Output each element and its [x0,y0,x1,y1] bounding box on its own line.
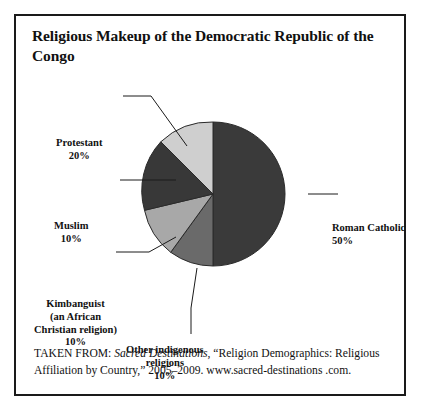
source-prefix: TAKEN FROM: [34,347,114,360]
source-caption: TAKEN FROM: Sacred Destinations, “Religi… [34,346,396,379]
figure-frame: Religious Makeup of the Democratic Repub… [14,14,406,396]
pie-label-protestant-name: Protestant [56,137,102,150]
pie-label-protestant: Protestant 20% [56,137,102,163]
figure-container: Religious Makeup of the Democratic Repub… [0,0,422,415]
page-title: Religious Makeup of the Democratic Repub… [32,26,384,66]
pie-label-roman-catholic-name: Roman Catholic [332,222,405,235]
pie-label-roman-catholic-pct: 50% [332,235,405,248]
pie-chart: Protestant 20% Muslim 10% Kimbanguist (a… [16,72,404,334]
pie-label-kimbanguist-name: Kimbanguist [34,298,117,311]
leader-line-other-indigenous [191,268,197,334]
pie-label-kimbanguist: Kimbanguist (an African Christian religi… [34,298,117,349]
pie-slice-roman-catholic [213,122,285,266]
pie-label-muslim-name: Muslim [54,220,88,233]
pie-label-kimbanguist-line3: Christian religion) [34,324,117,337]
pie-label-muslim-pct: 10% [54,233,88,246]
pie-label-roman-catholic: Roman Catholic 50% [332,222,405,248]
pie-label-muslim: Muslim 10% [54,220,88,246]
pie-chart-svg [16,72,404,334]
source-publication-title: Sacred Destinations [114,347,207,360]
pie-label-protestant-pct: 20% [56,150,102,163]
pie-label-kimbanguist-line2: (an African [34,311,117,324]
